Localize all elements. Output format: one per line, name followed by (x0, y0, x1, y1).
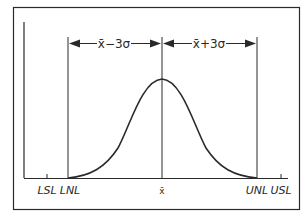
mean-label: x̄ (159, 186, 165, 196)
arrowhead-right-icon (150, 40, 161, 48)
control-limits-diagram: x̄−3σ x̄+3σ LSL LNL x̄ UNL USL (0, 0, 306, 216)
left-span-label: x̄−3σ (98, 37, 131, 51)
lsl-label: LSL (37, 184, 56, 197)
unl-label: UNL (246, 184, 268, 197)
right-span-label: x̄+3σ (193, 37, 226, 51)
arrowhead-left-icon (69, 40, 80, 48)
arrowhead-right-icon (245, 40, 256, 48)
lnl-label: LNL (60, 184, 81, 197)
usl-label: USL (270, 184, 291, 197)
arrowhead-left-icon (163, 40, 174, 48)
